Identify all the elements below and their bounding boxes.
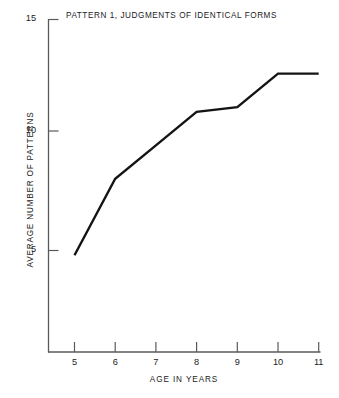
chart-title: PATTERN 1, JUDGMENTS OF IDENTICAL FORMS [66, 11, 277, 20]
x-tick-label-11: 11 [308, 357, 330, 367]
x-tick-label-7: 7 [145, 357, 167, 367]
x-tick-label-8: 8 [186, 357, 208, 367]
x-axis-title: AGE IN YEARS [48, 375, 320, 384]
data-series-line [75, 74, 319, 256]
x-tick-label-6: 6 [104, 357, 126, 367]
y-tick-label-10: 10 [10, 125, 36, 135]
y-tick-label-5: 5 [10, 244, 36, 254]
x-tick-marks [75, 342, 319, 352]
x-tick-label-9: 9 [226, 357, 248, 367]
x-tick-label-5: 5 [64, 357, 86, 367]
y-tick-marks [49, 20, 59, 251]
y-tick-label-15: 15 [10, 13, 36, 23]
chart-figure: PATTERN 1, JUDGMENTS OF IDENTICAL FORMS … [0, 0, 339, 398]
x-tick-label-10: 10 [267, 357, 289, 367]
plot-canvas [0, 0, 339, 398]
y-axis-title: AVERAGE NUMBER OF PATTERNS [26, 95, 35, 285]
